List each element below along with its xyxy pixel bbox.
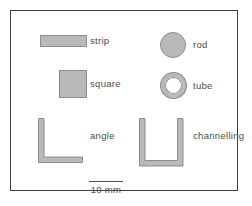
rod-label: rod bbox=[193, 39, 208, 51]
channelling-shape bbox=[139, 118, 184, 167]
square-label: square bbox=[90, 78, 121, 90]
tube-label: tube bbox=[193, 80, 213, 92]
angle-label: angle bbox=[90, 130, 115, 142]
strip-label: strip bbox=[90, 35, 109, 47]
strip-shape bbox=[40, 35, 87, 47]
scale-bar-line bbox=[89, 181, 123, 182]
scale-bar-label: 10 mm bbox=[89, 184, 123, 196]
angle-shape bbox=[38, 118, 84, 164]
channelling-label: channelling bbox=[193, 130, 244, 142]
square-shape bbox=[59, 70, 87, 98]
rod-shape bbox=[160, 32, 186, 58]
tube-shape bbox=[161, 73, 186, 98]
diagram-frame: strip rod square tube angle channelling … bbox=[10, 10, 238, 191]
